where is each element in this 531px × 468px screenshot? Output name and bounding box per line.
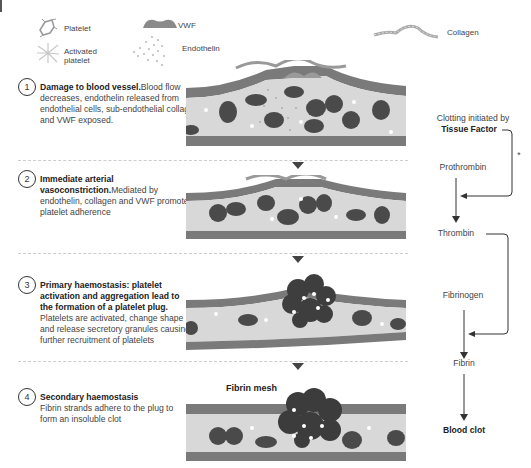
step-number-badge: 3: [18, 276, 36, 294]
step-body: Platelets are activated, change shape an…: [40, 313, 190, 345]
endothelin-icon: [130, 34, 174, 68]
step-body: Fibrin strands adhere to the plug to for…: [40, 403, 173, 424]
step-description: Secondary haemostasisFibrin strands adhe…: [40, 392, 180, 425]
legend-platelet-label: Platelet: [64, 24, 91, 33]
legend-collagen-label: Collagen: [447, 28, 479, 37]
activated-platelet-icon: [36, 42, 60, 64]
down-arrow-icon: [292, 256, 304, 263]
separator: [18, 160, 408, 161]
down-arrow-icon: [292, 162, 304, 169]
step-title: Secondary haemostasis: [40, 392, 138, 402]
vwf-icon: [142, 16, 178, 30]
step-description: Damage to blood vessel.Blood flow decrea…: [40, 82, 200, 126]
step-number-badge: 2: [18, 170, 36, 188]
platelet-icon: [36, 18, 58, 38]
collagen-icon: [372, 22, 440, 40]
step-title: Damage to blood vessel.: [40, 82, 141, 92]
step-description: Immediate arterial vasoconstriction.Medi…: [40, 174, 190, 218]
step-number-badge: 4: [18, 388, 36, 406]
step-title: Primary haemostasis: platelet activation…: [40, 280, 179, 312]
vessel-illustration-4: [186, 376, 406, 468]
vessel-illustration-2: [186, 175, 406, 245]
vessel-illustration-1: [186, 60, 406, 160]
down-arrow-icon: [292, 363, 304, 370]
legend-endothelin-label: Endothelin: [182, 44, 220, 53]
step-description: Primary haemostasis: platelet activation…: [40, 280, 192, 346]
legend-activated-platelet-label: Activated platelet: [64, 47, 97, 65]
legend-vwf-label: VWF: [178, 21, 196, 30]
step-title: Immediate arterial vasoconstriction.: [40, 174, 114, 195]
vessel-illustration-3: [186, 270, 406, 360]
step-number-badge: 1: [18, 78, 36, 96]
fibrin-mesh-label: Fibrin mesh: [226, 383, 277, 393]
arrow-head-icon: [460, 193, 467, 199]
left-edge-bar: [0, 0, 2, 12]
cascade-arrows: [400, 118, 531, 468]
separator: [18, 253, 408, 254]
separator: [18, 361, 408, 362]
